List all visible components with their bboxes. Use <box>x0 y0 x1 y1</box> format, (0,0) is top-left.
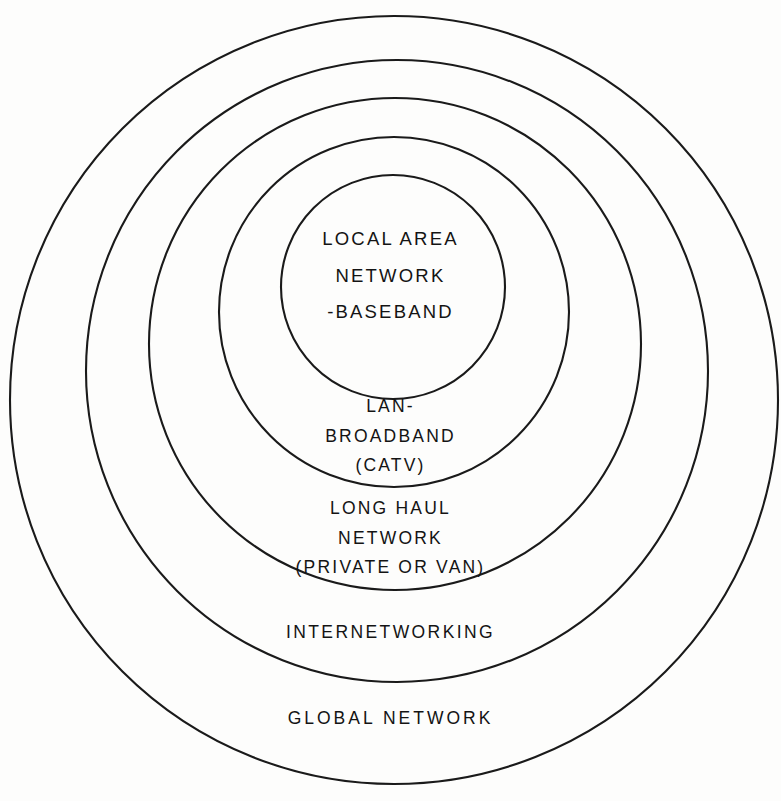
ring-circle-internetworking <box>86 60 708 682</box>
ring-circle-lan-baseband <box>281 175 505 399</box>
ring-circle-lan-broadband <box>219 137 569 487</box>
network-hierarchy-diagram: LOCAL AREA NETWORK -BASEBAND LAN- BROADB… <box>0 0 781 801</box>
concentric-rings-group <box>0 0 781 801</box>
